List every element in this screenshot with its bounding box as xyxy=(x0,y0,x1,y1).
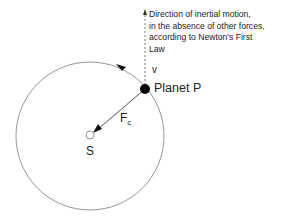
force-subscript: c xyxy=(127,118,131,127)
inertial-direction-note: Direction of inertial motion, in the abs… xyxy=(149,9,265,55)
centripetal-arrowhead-icon xyxy=(93,124,102,133)
note-line: according to Newton's First xyxy=(149,32,265,44)
note-line: in the absence of other forces, xyxy=(149,21,265,33)
sun-label: S xyxy=(86,144,94,158)
sun-marker xyxy=(86,131,94,139)
note-line: Direction of inertial motion, xyxy=(149,9,265,21)
planet-marker xyxy=(140,84,150,94)
inertial-arrowhead-icon xyxy=(143,9,147,15)
note-line: Law xyxy=(149,44,265,56)
velocity-label: v xyxy=(152,64,157,75)
centripetal-force-label: Fc xyxy=(120,111,131,127)
planet-label: Planet P xyxy=(154,81,201,95)
